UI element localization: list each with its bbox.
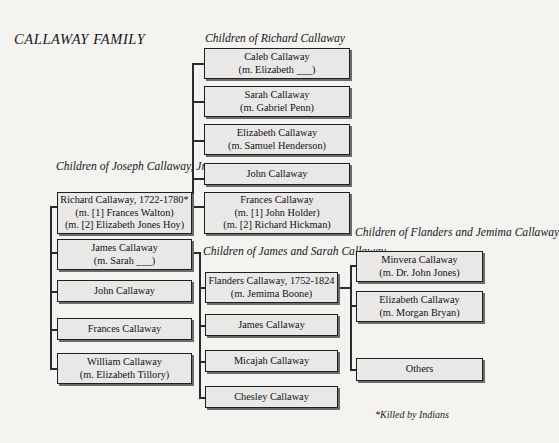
node-line-1: Others [406, 363, 433, 375]
node-minvera-callaway[interactable]: Minvera Callaway (m. Dr. John Jones) [356, 251, 483, 282]
node-elizabeth-callaway-henderson[interactable]: Elizabeth Callaway (m. Samuel Henderson) [204, 124, 350, 155]
connector-stub-richard-5 [192, 206, 204, 208]
node-line-1: Elizabeth Callaway [237, 127, 317, 139]
node-line-3: (m. [2] Richard Hickman) [223, 219, 331, 231]
node-william-callaway[interactable]: William Callaway (m. Elizabeth Tillory) [57, 353, 192, 384]
node-line-1: James Callaway [91, 242, 158, 254]
connector-trunk-joseph [50, 206, 52, 368]
connector-stub-richard-4 [192, 178, 204, 180]
group-title-flanders: Children of Flanders and Jemima Callaway [355, 226, 493, 240]
node-line-1: Caleb Callaway [244, 51, 309, 63]
node-line-1: Frances Callaway [88, 323, 161, 335]
node-line-1: John Callaway [94, 285, 155, 297]
node-james-callaway-joseph[interactable]: James Callaway (m. Sarah ___) [57, 239, 192, 270]
node-line-2: (m. Samuel Henderson) [228, 140, 326, 152]
node-richard-callaway[interactable]: Richard Callaway, 1722-1780* (m. [1] Fra… [57, 192, 192, 234]
node-line-2: (m. Elizabeth Tillory) [80, 369, 170, 381]
node-line-2: (m. [1] Frances Walton) [75, 207, 174, 219]
node-line-2: (m. [1] John Holder) [234, 207, 319, 219]
footnote: *Killed by Indians [375, 409, 449, 420]
connector-stub-richard-2 [192, 101, 204, 103]
node-line-2: (m. Dr. John Jones) [379, 267, 459, 279]
node-line-1: Chesley Callaway [234, 391, 309, 403]
node-line-1: Micajah Callaway [234, 355, 309, 367]
node-line-2: (m. Gabriel Penn) [240, 102, 314, 114]
node-line-2: (m. Elizabeth ___) [239, 64, 316, 76]
node-line-2: (m. Jemima Boone) [231, 288, 313, 300]
node-james-callaway-james[interactable]: James Callaway [205, 314, 338, 336]
node-others[interactable]: Others [356, 358, 483, 381]
node-john-callaway-richard[interactable]: John Callaway [204, 163, 350, 185]
page-title: CALLAWAY FAMILY [14, 31, 145, 48]
node-chesley-callaway[interactable]: Chesley Callaway [205, 386, 338, 408]
group-title-flanders-line2: and Jemima Callaway [455, 226, 559, 239]
node-line-2: (m. Morgan Bryan) [379, 307, 459, 319]
node-line-1: James Callaway [238, 319, 305, 331]
connector-stub-richard-3 [192, 140, 204, 142]
group-title-flanders-line1: Children of Flanders [355, 226, 452, 239]
connector-stub-richard-1 [192, 63, 204, 65]
node-elizabeth-callaway-bryan[interactable]: Elizabeth Callaway (m. Morgan Bryan) [356, 291, 483, 322]
group-title-joseph: Children of Joseph Callaway, Jr. [56, 160, 204, 174]
node-sarah-callaway[interactable]: Sarah Callaway (m. Gabriel Penn) [204, 86, 350, 117]
node-micajah-callaway[interactable]: Micajah Callaway [205, 350, 338, 372]
connector-trunk-flanders [350, 265, 352, 370]
group-title-james: Children of James and Sarah Callaway [203, 245, 351, 259]
node-line-1: John Callaway [247, 168, 308, 180]
node-line-1: Frances Callaway [240, 194, 313, 206]
node-line-1: Elizabeth Callaway [379, 294, 459, 306]
node-line-1: Richard Callaway, 1722-1780* [60, 194, 188, 206]
node-line-1: Minvera Callaway [381, 254, 457, 266]
group-title-richard-line1: Children of Richard Callaway [205, 32, 345, 45]
node-line-1: William Callaway [87, 356, 162, 368]
node-john-callaway-joseph[interactable]: John Callaway [57, 280, 192, 302]
node-frances-callaway-richard[interactable]: Frances Callaway (m. [1] John Holder) (m… [204, 192, 350, 234]
group-title-joseph-line1: Children of [56, 160, 109, 173]
connector-trunk-richard [192, 63, 194, 208]
node-frances-callaway-joseph[interactable]: Frances Callaway [57, 318, 192, 340]
node-line-2: (m. Sarah ___) [94, 255, 155, 267]
group-title-james-line1: Children of James [203, 245, 288, 258]
node-flanders-callaway[interactable]: Flanders Callaway, 1752-1824 (m. Jemima … [205, 272, 338, 303]
node-caleb-callaway[interactable]: Caleb Callaway (m. Elizabeth ___) [204, 48, 350, 79]
group-title-richard: Children of Richard Callaway [200, 32, 350, 46]
node-line-1: Sarah Callaway [245, 89, 310, 101]
node-line-3: (m. [2] Elizabeth Jones Hoy) [65, 219, 184, 231]
node-line-1: Flanders Callaway, 1752-1824 [208, 275, 334, 287]
